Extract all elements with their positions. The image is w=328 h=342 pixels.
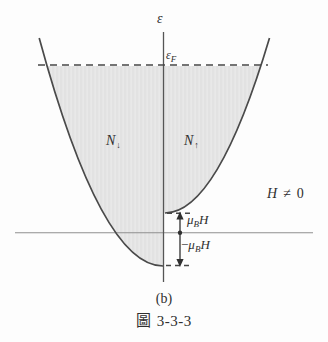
occupied-states-shaded-region xyxy=(47,66,261,266)
figure-number-caption: 圖3-3-3 xyxy=(136,309,192,330)
not-equal-sign: ≠ xyxy=(283,186,291,201)
energy-axis-label: ε xyxy=(157,12,163,26)
axis-origin-dot xyxy=(178,231,182,235)
pauli-paramagnetism-diagram: ε εF N↓ N↑ H≠0 μBH −μBH (b) 圖3-3-3 xyxy=(0,0,328,342)
spin-up-band-label: N↑ xyxy=(184,134,200,148)
down-arrow-icon: ↓ xyxy=(116,140,122,150)
figure-number: 3-3-3 xyxy=(157,313,192,329)
spin-down-band-label: N↓ xyxy=(106,134,122,148)
zeeman-shift-down-label: −μBH xyxy=(181,238,210,251)
figure-word-cjk: 圖 xyxy=(136,313,152,329)
up-arrow-icon: ↑ xyxy=(194,140,200,150)
zeeman-shift-up-label: μBH xyxy=(187,213,208,226)
panel-caption: (b) xyxy=(156,291,172,307)
field-condition-label: H≠0 xyxy=(267,187,304,201)
fermi-level-label: εF xyxy=(166,49,176,61)
